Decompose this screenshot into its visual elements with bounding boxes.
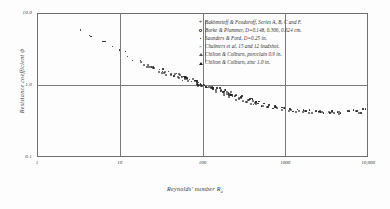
data-point xyxy=(158,71,160,73)
data-point xyxy=(225,89,227,91)
data-point xyxy=(198,82,199,83)
legend-label: Saunders & Ford, D=0.25 in. xyxy=(205,36,267,41)
legend-item: ×Chalmers et al, 15 and 12 leadshot. xyxy=(196,43,302,51)
legend-item: Burke & Plummer, D=0.148, 0.306, 0.624 c… xyxy=(196,26,302,34)
legend-marker-open-triangle-icon xyxy=(196,51,205,59)
legend-label: Chilton & Colburn, zinc 1.0 in. xyxy=(205,60,270,65)
x-tick-label: 10,000 xyxy=(348,160,388,165)
y-tick-label: 0.1 xyxy=(2,154,32,159)
data-point xyxy=(228,94,230,96)
legend-marker-plus-icon: + xyxy=(196,18,205,26)
data-point xyxy=(216,87,218,89)
y-tick-label: 1.0 xyxy=(2,82,32,87)
data-point xyxy=(196,80,198,82)
data-point xyxy=(250,103,252,105)
data-point xyxy=(219,87,221,89)
legend-item: Chilton & Colburn, zinc 1.0 in. xyxy=(196,59,302,67)
x-axis-title-subscript: e xyxy=(221,189,223,194)
legend: +Bakhmeteff & Feodoroff, Series A, B, C … xyxy=(196,18,302,67)
x-tick-label: 1 xyxy=(17,160,57,165)
legend-item: Saunders & Ford, D=0.25 in. xyxy=(196,34,302,42)
data-point xyxy=(222,91,224,93)
legend-marker-open-circle-icon xyxy=(196,26,205,34)
data-point xyxy=(295,111,297,113)
legend-label: Chalmers et al, 15 and 12 leadshot. xyxy=(205,44,279,49)
data-point xyxy=(288,110,290,112)
y-axis-title: Resistance coefficient ψ xyxy=(19,26,25,136)
data-point xyxy=(349,110,351,112)
data-point xyxy=(311,112,313,114)
data-point xyxy=(255,101,257,103)
data-point xyxy=(187,80,189,82)
legend-item: Chilton & Colburn, porcelain 0.9 in. xyxy=(196,51,302,59)
x-tick-label: 10 xyxy=(100,160,140,165)
legend-label: Chilton & Colburn, porcelain 0.9 in. xyxy=(205,52,282,57)
data-point xyxy=(255,103,257,105)
data-point xyxy=(340,112,342,114)
data-point xyxy=(181,76,182,77)
x-axis-title-main: Reynolds' number R xyxy=(167,186,221,192)
data-point xyxy=(289,108,291,110)
data-point xyxy=(362,108,364,110)
data-point xyxy=(201,85,203,87)
x-tick-label: 100 xyxy=(183,160,223,165)
data-point xyxy=(104,41,105,42)
data-point xyxy=(186,77,188,79)
data-point xyxy=(292,111,294,113)
figure-root: 10.01.00.1 110100100010,000 Resistance c… xyxy=(0,0,390,209)
data-point xyxy=(356,110,358,112)
legend-label: Burke & Plummer, D=0.148, 0.306, 0.624 c… xyxy=(205,28,302,33)
data-point xyxy=(148,66,150,68)
data-point xyxy=(215,91,217,93)
data-point xyxy=(228,96,230,98)
data-point xyxy=(298,110,300,112)
data-point xyxy=(119,49,120,50)
legend-marker-dot-icon xyxy=(196,34,205,42)
data-point xyxy=(90,36,91,37)
legend-label: Bakhmeteff & Feodoroff, Series A, B, C a… xyxy=(205,20,302,25)
legend-marker-x-icon: × xyxy=(196,43,205,51)
data-point xyxy=(153,66,154,67)
data-point xyxy=(329,112,331,114)
data-point xyxy=(80,30,81,31)
data-point xyxy=(305,110,307,112)
data-point xyxy=(165,74,167,76)
legend-item: +Bakhmeteff & Feodoroff, Series A, B, C … xyxy=(196,18,302,26)
data-point xyxy=(331,110,333,112)
data-point xyxy=(360,112,362,114)
legend-marker-filled-triangle-icon xyxy=(196,59,205,67)
x-axis-title: Reynolds' number Re xyxy=(0,186,390,194)
data-point xyxy=(205,86,207,88)
data-point xyxy=(268,104,270,106)
y-tick-label: 10.0 xyxy=(2,10,32,15)
data-point xyxy=(159,69,160,70)
data-point xyxy=(257,103,258,104)
data-point xyxy=(353,109,355,111)
x-tick-label: 1000 xyxy=(265,160,305,165)
data-point xyxy=(281,109,283,111)
